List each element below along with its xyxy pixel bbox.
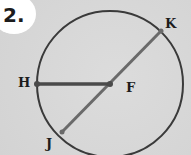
label-f: F — [126, 80, 136, 95]
diagram-canvas: 2. H F K J — [0, 0, 191, 155]
problem-number: 2. — [3, 3, 25, 27]
point-j — [60, 130, 65, 135]
point-f — [107, 81, 113, 87]
point-k — [159, 29, 164, 34]
point-h — [34, 81, 40, 87]
label-j: J — [45, 136, 52, 151]
label-k: K — [165, 16, 177, 31]
label-h: H — [18, 75, 30, 90]
circle-diagram: 2. H F K J — [0, 0, 191, 155]
